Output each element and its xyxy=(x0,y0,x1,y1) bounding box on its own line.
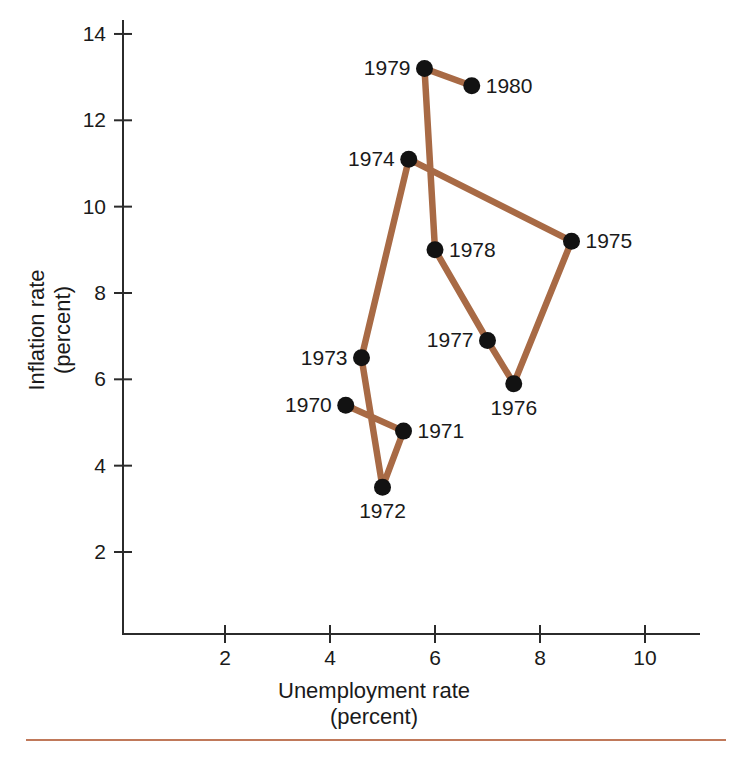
data-point-label-1979: 1979 xyxy=(364,56,411,79)
x-axis-title-line1: Unemployment rate xyxy=(278,678,470,703)
axis-lines xyxy=(123,20,700,634)
data-point-label-1978: 1978 xyxy=(449,238,496,261)
x-axis-tick-label: 6 xyxy=(429,646,441,669)
phillips-curve-chart: 2468101214246810 19701971197219731974197… xyxy=(0,0,739,761)
bottom-divider-rule xyxy=(26,739,726,741)
data-point-1979[interactable] xyxy=(416,60,433,77)
data-point-label-1976: 1976 xyxy=(490,396,537,419)
data-point-1972[interactable] xyxy=(374,479,391,496)
axis-group: 2468101214246810 xyxy=(83,20,700,669)
x-axis-tick-label: 2 xyxy=(219,646,231,669)
data-point-1977[interactable] xyxy=(479,332,496,349)
x-axis-tick-label: 8 xyxy=(534,646,546,669)
x-axis-title-line2: (percent) xyxy=(330,704,418,729)
data-point-label-1972: 1972 xyxy=(359,499,406,522)
data-point-label-1977: 1977 xyxy=(427,328,474,351)
y-axis-tick-label: 4 xyxy=(94,454,106,477)
y-axis-tick-label: 14 xyxy=(83,22,107,45)
data-point-1975[interactable] xyxy=(563,233,580,250)
y-axis-tick-label: 6 xyxy=(94,367,106,390)
y-axis-title-line1: Inflation rate xyxy=(24,269,49,390)
data-point-label-1980: 1980 xyxy=(486,74,533,97)
data-point-label-1971: 1971 xyxy=(418,419,465,442)
data-point-label-1974: 1974 xyxy=(348,147,395,170)
data-point-1980[interactable] xyxy=(463,77,480,94)
data-point-1976[interactable] xyxy=(505,375,522,392)
y-axis-tick-label: 10 xyxy=(83,195,106,218)
data-point-1971[interactable] xyxy=(395,423,412,440)
data-point-label-1975: 1975 xyxy=(586,229,633,252)
y-axis-tick-label: 2 xyxy=(94,540,106,563)
data-point-1970[interactable] xyxy=(337,397,354,414)
data-point-label-1970: 1970 xyxy=(285,393,332,416)
data-point-1978[interactable] xyxy=(427,241,444,258)
x-axis-tick-label: 4 xyxy=(324,646,336,669)
y-axis-tick-label: 12 xyxy=(83,108,106,131)
data-point-1973[interactable] xyxy=(353,349,370,366)
chart-canvas: 2468101214246810 19701971197219731974197… xyxy=(0,0,739,761)
data-point-1974[interactable] xyxy=(400,151,417,168)
data-point-label-1973: 1973 xyxy=(301,346,348,369)
y-axis-title-line2: (percent) xyxy=(50,286,75,374)
x-axis-tick-label: 10 xyxy=(633,646,656,669)
y-axis-tick-label: 8 xyxy=(94,281,106,304)
